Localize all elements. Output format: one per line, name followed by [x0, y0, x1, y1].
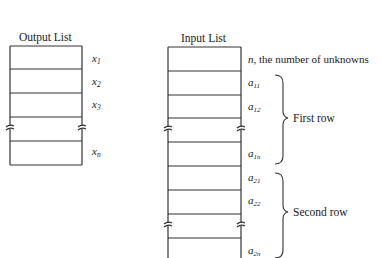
input-list-title: Input List	[181, 32, 227, 45]
svg-text:x1: x1	[91, 52, 101, 66]
input-first-cell-label: n, the number of unknowns	[248, 53, 369, 65]
svg-text:a22: a22	[248, 194, 261, 208]
first-row-label: First row	[293, 112, 336, 124]
output-list	[6, 46, 86, 165]
second-row-label: Second row	[293, 206, 348, 218]
output-list-title: Output List	[19, 31, 73, 44]
input-labels: a11 a12 a1n a21 a22 a2n	[248, 76, 261, 258]
svg-text:a11: a11	[248, 76, 260, 90]
svg-text:xn: xn	[91, 145, 101, 159]
svg-text:a12: a12	[248, 100, 261, 114]
svg-text:x3: x3	[91, 98, 101, 112]
second-row-brace	[275, 173, 288, 258]
svg-text:a1n: a1n	[248, 147, 261, 161]
svg-text:x2: x2	[91, 75, 101, 89]
input-list	[164, 47, 245, 258]
first-row-brace	[275, 75, 288, 164]
svg-text:a21: a21	[248, 171, 261, 185]
memory-list-diagram: Output List x1 x2 x3 xn Input List n,	[0, 0, 381, 258]
output-labels: x1 x2 x3 xn	[91, 52, 101, 159]
svg-text:a2n: a2n	[248, 244, 261, 258]
